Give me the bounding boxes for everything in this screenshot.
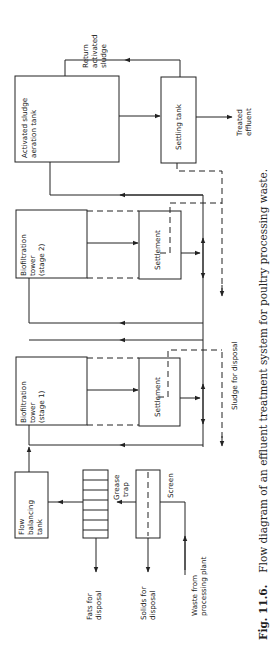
biofilter2-label-1: Biofiltration: [19, 234, 28, 276]
aeration-outlet-line: [50, 162, 203, 195]
recycle-to-biofilter1-line: [29, 425, 120, 445]
recycle-to-biofilter2-line: [29, 278, 120, 323]
sludge-disposal-label: Sludge for disposal: [230, 341, 239, 410]
waste-input-label-1: Waste from: [190, 575, 199, 616]
aeration-tank-label-1: Activated sludge: [20, 97, 29, 158]
waste-input-label-2: processing plant: [199, 556, 208, 616]
grease-trap-label-1: Grease: [112, 474, 121, 500]
biofilter1-label-1: Biofiltration: [19, 381, 28, 423]
flow-balancing-label-1: Flow: [17, 518, 26, 535]
solids-disposal-label-1: Solids for: [139, 587, 148, 620]
figure-caption-text: Flow diagram of an effluent treatment sy…: [257, 169, 269, 573]
waste-input-line: [160, 502, 185, 570]
screen-label: Screen: [166, 473, 175, 498]
flow-balancing-label-3: tank: [35, 518, 44, 535]
return-sludge-label-3: sludge: [99, 44, 108, 68]
effluent-flow-diagram: Activated sludge aeration tank Settling …: [0, 0, 273, 664]
fats-disposal-label-2: disposal: [94, 591, 103, 620]
biofilter1-label-2: tower: [28, 402, 37, 423]
figure-number: Fig. 11.6.: [257, 585, 269, 640]
return-sludge-arrow: [125, 60, 180, 77]
biofilter2-label-2: tower: [28, 255, 37, 276]
treated-effluent-label-1: Treated: [235, 109, 244, 137]
settling-tank-label: Settling tank: [174, 103, 183, 150]
aeration-tank-label-2: aeration tank: [29, 109, 38, 158]
settlement2-label: Settlement: [153, 230, 162, 270]
biofilter2-dashed-links: [87, 211, 139, 278]
return-sludge-label-2: activated: [90, 34, 99, 68]
settling-sludge-dashed-line: [177, 163, 222, 285]
figure-caption: Fig. 11.6. Flow diagram of an effluent t…: [253, 169, 270, 640]
return-sludge-label-1: Return: [81, 44, 90, 68]
treated-effluent-label-2: effluent: [244, 108, 253, 136]
solids-disposal-label-2: disposal: [148, 591, 157, 620]
grease-trap-label-2: trap: [121, 482, 130, 497]
biofilter1-dashed-links: [87, 358, 139, 425]
biofilter1-label-3: (stage 1): [37, 390, 46, 423]
biofilter2-label-3: (stage 2): [37, 243, 46, 276]
flow-balancing-label-2: balancing: [26, 500, 35, 535]
fats-disposal-label-1: Fats for: [85, 593, 94, 620]
